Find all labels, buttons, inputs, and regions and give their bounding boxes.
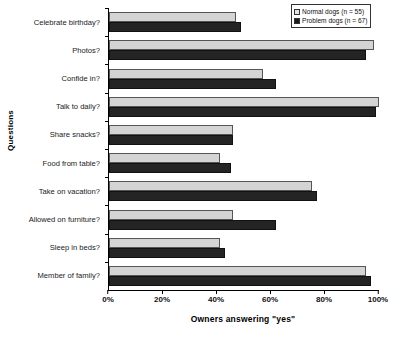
y-axis-tick <box>105 149 109 150</box>
y-axis-category-labels: Celebrate birthday?Photos?Confide in?Tal… <box>10 8 104 290</box>
legend-label: Problem dogs (n = 67) <box>302 17 367 24</box>
bar-normal-dogs <box>109 181 312 191</box>
bar-normal-dogs <box>109 266 366 276</box>
bar-normal-dogs <box>109 210 233 220</box>
bar-group <box>109 149 379 177</box>
bar-problem-dogs <box>109 191 317 201</box>
y-axis-category-label: Photos? <box>10 36 104 64</box>
legend-entry: Normal dogs (n = 55) <box>294 7 367 16</box>
bar-group <box>109 177 379 205</box>
x-axis-tick-mark <box>269 290 270 294</box>
bar-group <box>109 36 379 64</box>
x-axis-tick: 60% <box>262 290 278 304</box>
x-axis-title: Owners answering "yes" <box>108 314 378 324</box>
bar-chart: Questions Celebrate birthday?Photos?Conf… <box>0 0 400 338</box>
bar-problem-dogs <box>109 163 231 173</box>
y-axis-category-label: Share snacks? <box>10 121 104 149</box>
bar-group <box>109 205 379 233</box>
y-axis-category-label: Member of family? <box>10 262 104 290</box>
bar-normal-dogs <box>109 40 374 50</box>
bar-problem-dogs <box>109 107 376 117</box>
bar-normal-dogs <box>109 125 233 135</box>
y-axis-category-label: Confide in? <box>10 64 104 92</box>
legend-swatch-problem <box>294 18 300 24</box>
bar-normal-dogs <box>109 12 236 22</box>
x-axis-tick-label: 100% <box>368 295 388 304</box>
y-axis-tick <box>105 262 109 263</box>
x-axis-tick-mark <box>378 290 379 294</box>
y-axis-category-label: Talk to daily? <box>10 93 104 121</box>
bar-normal-dogs <box>109 69 263 79</box>
bar-problem-dogs <box>109 50 366 60</box>
x-axis-tick-mark <box>108 290 109 294</box>
y-axis-category-label: Take on vacation? <box>10 177 104 205</box>
y-axis-category-label: Allowed on furniture? <box>10 205 104 233</box>
y-axis-tick <box>105 36 109 37</box>
x-axis-tick-mark <box>323 290 324 294</box>
y-axis-tick <box>105 121 109 122</box>
x-axis-tick-label: 40% <box>208 295 224 304</box>
bar-problem-dogs <box>109 135 233 145</box>
x-axis-tick-label: 80% <box>316 295 332 304</box>
y-axis-tick <box>105 205 109 206</box>
y-axis-category-label: Celebrate birthday? <box>10 8 104 36</box>
bar-problem-dogs <box>109 22 241 32</box>
bar-normal-dogs <box>109 97 379 107</box>
legend-swatch-normal <box>294 9 300 15</box>
bar-group <box>109 234 379 262</box>
x-axis-tick: 100% <box>368 290 388 304</box>
x-axis-tick: 20% <box>154 290 170 304</box>
y-axis-tick <box>105 93 109 94</box>
y-axis-tick <box>105 64 109 65</box>
bar-rows <box>109 8 379 290</box>
x-axis-tick: 0% <box>102 290 114 304</box>
bar-group <box>109 64 379 92</box>
y-axis-tick <box>105 234 109 235</box>
bar-problem-dogs <box>109 79 276 89</box>
bar-normal-dogs <box>109 238 220 248</box>
x-axis-tick-label: 60% <box>262 295 278 304</box>
x-axis-tick-mark <box>215 290 216 294</box>
plot-area <box>108 8 379 291</box>
y-axis-category-label: Food from table? <box>10 149 104 177</box>
bar-normal-dogs <box>109 153 220 163</box>
x-axis-tick-label: 0% <box>102 295 114 304</box>
bar-group <box>109 121 379 149</box>
y-axis-category-label: Sleep in beds? <box>10 234 104 262</box>
x-axis-tick-label: 20% <box>154 295 170 304</box>
bar-problem-dogs <box>109 276 371 286</box>
x-axis-tick: 40% <box>208 290 224 304</box>
bar-group <box>109 93 379 121</box>
bar-group <box>109 262 379 290</box>
x-axis-ticks: 0%20%40%60%80%100% <box>108 290 378 310</box>
legend-label: Normal dogs (n = 55) <box>302 8 364 15</box>
y-axis-tick <box>105 177 109 178</box>
y-axis-tick <box>105 8 109 9</box>
bar-problem-dogs <box>109 248 225 258</box>
x-axis-tick: 80% <box>316 290 332 304</box>
x-axis-tick-mark <box>161 290 162 294</box>
bar-problem-dogs <box>109 220 276 230</box>
chart-legend: Normal dogs (n = 55)Problem dogs (n = 67… <box>291 4 371 28</box>
legend-entry: Problem dogs (n = 67) <box>294 16 367 25</box>
